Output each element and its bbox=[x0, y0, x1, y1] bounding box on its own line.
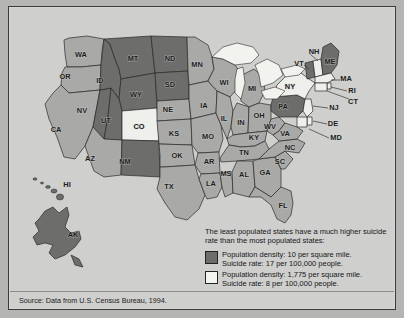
state-label-LA: LA bbox=[206, 179, 217, 188]
state-shape-HI[interactable] bbox=[33, 178, 64, 200]
legend-low-line1: Population density: 10 per square mile. bbox=[222, 250, 352, 259]
state-label-MD: MD bbox=[330, 133, 342, 142]
state-label-NY: NY bbox=[285, 82, 295, 91]
state-label-TX: TX bbox=[164, 182, 174, 191]
legend-swatch-low-density bbox=[205, 251, 218, 264]
state-label-KY: KY bbox=[249, 133, 259, 142]
state-label-OR: OR bbox=[59, 72, 71, 81]
legend-low-line2: Suicide rate: 17 per 100,000 people. bbox=[222, 259, 343, 268]
legend-entry-text: Population density: 10 per square mile. … bbox=[222, 250, 352, 268]
leader-line-DE bbox=[313, 121, 327, 124]
legend-entry-text: Population density: 1,775 per square mil… bbox=[222, 270, 362, 288]
state-label-MN: MN bbox=[191, 60, 203, 69]
state-label-AL: AL bbox=[239, 170, 249, 179]
state-shape-DE[interactable] bbox=[307, 117, 312, 125]
state-shape-AL[interactable] bbox=[232, 161, 255, 197]
state-shape-NJ[interactable] bbox=[303, 99, 313, 117]
state-label-GA: GA bbox=[259, 168, 271, 177]
state-label-MO: MO bbox=[202, 132, 214, 141]
legend-swatch-high-density bbox=[205, 271, 218, 284]
state-label-KS: KS bbox=[169, 129, 179, 138]
legend-entry-low-density[interactable]: Population density: 10 per square mile. … bbox=[205, 250, 391, 268]
legend-intro-line2: rate than the most populated states: bbox=[205, 236, 325, 245]
state-label-CT: CT bbox=[348, 97, 358, 106]
legend-high-line2: Suicide rate: 8 per 100,000 people. bbox=[222, 279, 339, 288]
state-label-DE: DE bbox=[328, 119, 338, 128]
state-label-OH: OH bbox=[253, 111, 264, 120]
state-shape-TX[interactable] bbox=[157, 165, 205, 220]
state-label-IA: IA bbox=[200, 101, 208, 110]
state-label-MT: MT bbox=[128, 54, 139, 63]
state-label-MA: MA bbox=[340, 74, 352, 83]
state-label-CA: CA bbox=[51, 125, 62, 134]
state-label-HI: HI bbox=[63, 180, 70, 189]
state-label-SC: SC bbox=[275, 157, 286, 166]
state-shape-RI[interactable] bbox=[327, 83, 331, 89]
state-label-TN: TN bbox=[239, 148, 249, 157]
map-legend: The least populated states have a much h… bbox=[205, 227, 391, 291]
state-label-NE: NE bbox=[163, 105, 173, 114]
state-label-WV: WV bbox=[264, 122, 276, 131]
state-label-NH: NH bbox=[309, 47, 320, 56]
state-label-CO: CO bbox=[133, 122, 144, 131]
state-label-RI: RI bbox=[348, 86, 355, 95]
legend-high-line1: Population density: 1,775 per square mil… bbox=[222, 270, 362, 279]
state-label-UT: UT bbox=[101, 116, 111, 125]
leader-line-MD bbox=[309, 129, 329, 138]
state-label-ND: ND bbox=[165, 54, 176, 63]
state-shape-CT[interactable] bbox=[315, 83, 327, 91]
state-label-WA: WA bbox=[75, 50, 88, 59]
state-label-AZ: AZ bbox=[85, 154, 95, 163]
state-label-NC: NC bbox=[285, 143, 296, 152]
leader-line-CT bbox=[327, 91, 349, 99]
state-label-VT: VT bbox=[294, 59, 304, 68]
legend-intro: The least populated states have a much h… bbox=[205, 227, 391, 246]
state-label-WI: WI bbox=[219, 78, 228, 87]
state-label-NM: NM bbox=[119, 157, 131, 166]
leader-line-NJ bbox=[313, 106, 328, 108]
map-figure-frame: WAORCANVIDMTWYUTAZCONMNDSDNEKSOKTXMNIAMO… bbox=[8, 6, 396, 310]
legend-entry-high-density[interactable]: Population density: 1,775 per square mil… bbox=[205, 270, 391, 288]
state-label-ID: ID bbox=[96, 76, 104, 85]
source-divider bbox=[10, 291, 394, 292]
state-label-OK: OK bbox=[171, 151, 183, 160]
state-label-AR: AR bbox=[204, 157, 215, 166]
leader-line-RI bbox=[331, 87, 347, 91]
state-label-NV: NV bbox=[77, 106, 87, 115]
source-note: Source: Data from U.S. Census Bureau, 19… bbox=[19, 296, 167, 305]
state-label-MI: MI bbox=[248, 84, 256, 93]
state-shape-MD[interactable] bbox=[297, 117, 307, 127]
state-label-NJ: NJ bbox=[329, 103, 338, 112]
legend-intro-line1: The least populated states have a much h… bbox=[205, 227, 386, 236]
state-label-FL: FL bbox=[278, 201, 288, 210]
state-label-PA: PA bbox=[278, 102, 288, 111]
state-label-SD: SD bbox=[165, 80, 176, 89]
state-label-MS: MS bbox=[220, 169, 231, 178]
state-label-AK: AK bbox=[68, 230, 79, 239]
state-label-IL: IL bbox=[221, 114, 228, 123]
state-label-ME: ME bbox=[324, 57, 335, 66]
state-label-IN: IN bbox=[237, 118, 244, 127]
state-label-WY: WY bbox=[130, 90, 142, 99]
figure-canvas: WAORCANVIDMTWYUTAZCONMNDSDNEKSOKTXMNIAMO… bbox=[0, 0, 404, 318]
state-label-VA: VA bbox=[280, 129, 290, 138]
